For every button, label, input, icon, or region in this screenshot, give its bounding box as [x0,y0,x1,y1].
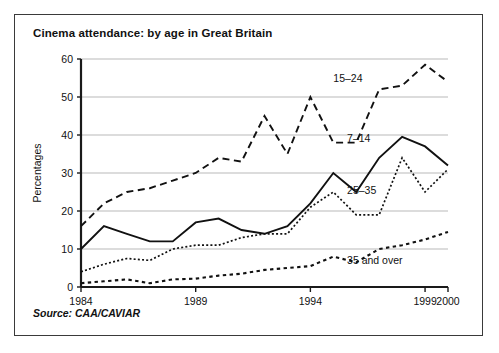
chart-frame: Cinema attendance: by age in Great Brita… [14,14,483,336]
series-label-2: 25–35 [347,184,376,196]
series-label-3: 35 and over [347,254,403,266]
y-axis-tick-label: 60 [61,53,73,65]
x-axis-tick-label: 1999 [413,295,437,307]
y-axis-title: Percentages [31,144,43,203]
y-axis-tick-label: 40 [61,129,73,141]
y-axis-tick-label: 50 [61,91,73,103]
x-axis-tick-label: 2000 [436,295,460,307]
series-label-0: 15–24 [333,72,362,84]
y-axis-tick-label: 10 [61,243,73,255]
line-chart-svg: 010203040506019841989199419992000Percent… [15,15,484,337]
y-axis-tick-label: 30 [61,167,73,179]
x-axis-tick-label: 1994 [299,295,323,307]
x-axis-tick-label: 1989 [184,295,208,307]
x-axis-tick-label: 1984 [69,295,93,307]
series-label-1: 7–14 [347,132,371,144]
y-axis-tick-label: 0 [67,281,73,293]
plot-area: 010203040506019841989199419992000Percent… [15,15,484,337]
y-axis-tick-label: 20 [61,205,73,217]
series-line-1 [81,137,448,249]
